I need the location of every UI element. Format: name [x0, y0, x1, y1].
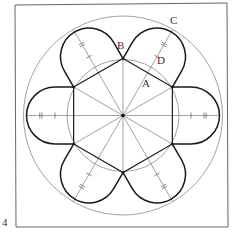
geometric-construction-diagram: B C D A 4	[0, 0, 234, 234]
label-a: A	[142, 77, 150, 89]
radial-line	[123, 116, 172, 145]
center-point	[121, 114, 125, 118]
tick-mark	[154, 173, 159, 176]
tick-mark	[86, 55, 91, 58]
tick-mark	[161, 44, 166, 47]
radial-line	[74, 116, 123, 145]
label-c: C	[170, 14, 177, 26]
figure-number: 4	[2, 216, 8, 228]
tick-mark	[161, 184, 166, 187]
tick-mark	[80, 44, 85, 47]
radial-line	[123, 87, 172, 116]
tick-mark	[79, 186, 84, 189]
tick-mark	[162, 186, 167, 189]
tick-mark	[86, 173, 91, 176]
label-d: D	[157, 54, 165, 66]
tick-mark	[80, 184, 85, 187]
tick-mark	[79, 42, 84, 45]
label-b: B	[117, 39, 124, 51]
tick-mark	[162, 42, 167, 45]
radial-line	[74, 87, 123, 116]
